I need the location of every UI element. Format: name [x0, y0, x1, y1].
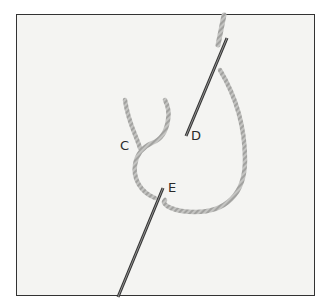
thread-top — [218, 15, 224, 45]
needle-lower — [118, 188, 163, 297]
stitch-illustration — [0, 0, 320, 303]
label-e: E — [168, 180, 176, 195]
label-c: C — [120, 138, 129, 153]
label-d: D — [191, 128, 201, 143]
needle-upper — [186, 38, 227, 136]
